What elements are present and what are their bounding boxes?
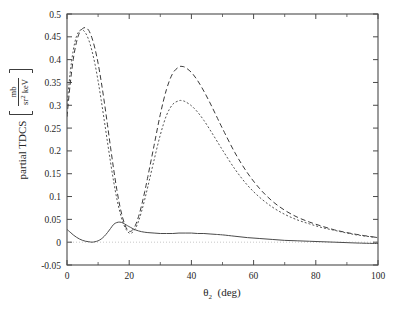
data-series-group — [67, 28, 378, 244]
x-tick-label: 60 — [249, 271, 259, 281]
figure-container: 020406080100 -0.0500.050.10.150.20.250.3… — [0, 0, 407, 317]
data-series-line — [67, 222, 378, 243]
y-tick-label: -0.05 — [41, 261, 61, 271]
y-tick-label: 0 — [56, 238, 61, 248]
chart-canvas: 020406080100 -0.0500.050.10.150.20.250.3… — [0, 0, 407, 317]
y-tick-label: 0.35 — [44, 78, 61, 88]
y-axis-title-text: partial TDCS — [16, 121, 28, 180]
y-tick-label: 0.45 — [44, 32, 61, 42]
y-tick-label: 0.5 — [49, 10, 61, 20]
x-tick-label: 20 — [124, 271, 134, 281]
x-axis-tick-labels: 020406080100 — [65, 271, 386, 281]
x-tick-label: 100 — [371, 271, 386, 281]
y-axis-unit-bracket: mb sr2 keV — [8, 70, 33, 115]
x-axis-title: θ2 (deg) — [203, 286, 241, 301]
x-axis-ticks — [67, 14, 378, 265]
plot-frame — [67, 14, 378, 265]
data-series-line — [67, 30, 378, 238]
y-tick-label: 0.4 — [49, 55, 61, 65]
y-axis-title: partial TDCS — [16, 121, 28, 180]
y-tick-label: 0.25 — [44, 124, 61, 134]
x-tick-label: 80 — [311, 271, 321, 281]
y-axis-tick-labels: -0.0500.050.10.150.20.250.30.350.40.450.… — [41, 10, 61, 271]
data-series-line — [67, 28, 378, 238]
y-tick-label: 0.2 — [49, 146, 61, 156]
unit-denominator: sr2 keV — [19, 78, 30, 105]
unit-numerator: mb — [8, 87, 18, 98]
y-tick-label: 0.15 — [44, 169, 61, 179]
x-tick-label: 40 — [187, 271, 197, 281]
x-tick-label: 0 — [65, 271, 70, 281]
y-tick-label: 0.3 — [49, 101, 61, 111]
y-tick-label: 0.05 — [44, 215, 61, 225]
svg-text:θ2 (deg): θ2 (deg) — [203, 286, 241, 301]
y-tick-label: 0.1 — [49, 192, 61, 202]
y-axis-ticks — [67, 14, 378, 265]
